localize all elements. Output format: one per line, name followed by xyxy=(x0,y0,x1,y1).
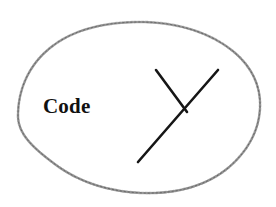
code-label: Code xyxy=(43,96,90,117)
y-mark-group xyxy=(138,70,218,162)
mark-short-branch xyxy=(156,70,187,112)
mark-long-diagonal xyxy=(138,70,218,162)
figure-svg xyxy=(0,0,276,207)
figure-canvas: Code xyxy=(0,0,276,207)
